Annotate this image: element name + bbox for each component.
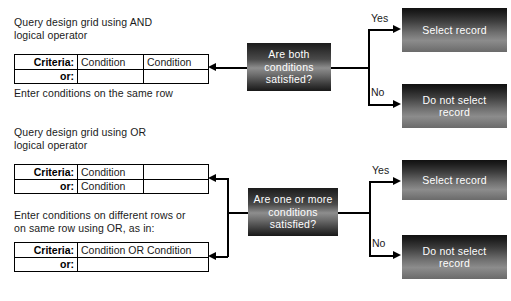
or-cell-1[interactable] <box>78 70 144 84</box>
arrow-and-no <box>393 100 401 108</box>
or-do-not-select-record-box[interactable]: Do not select record <box>402 235 507 279</box>
grid-row[interactable]: Criteria: Condition <box>15 165 208 180</box>
arrow-and-yes <box>393 25 401 33</box>
connector-and-no <box>368 104 396 106</box>
connector-or-decision-out <box>338 212 370 214</box>
and-select-record-box[interactable]: Select record <box>402 8 507 52</box>
connector-or-yes <box>369 181 396 183</box>
or-no-label: No <box>372 237 385 249</box>
arrow-into-or-grid-1 <box>208 174 216 182</box>
connector-and-decision-out <box>331 67 369 69</box>
grid-row[interactable]: or: <box>15 258 208 272</box>
criteria-cell-1[interactable]: Condition <box>78 165 144 179</box>
or-cell-2[interactable] <box>144 180 208 194</box>
or-query-design-grid[interactable]: Criteria: Condition or: Condition <box>14 164 209 194</box>
criteria-cell-1[interactable]: Condition OR Condition <box>78 243 208 257</box>
criteria-cell-2[interactable] <box>144 165 208 179</box>
and-no-label: No <box>371 86 384 98</box>
or-row-label: or: <box>15 70 78 84</box>
or-section-footnote: Enter conditions on different rows or on… <box>14 209 244 234</box>
or-combined-query-design-grid[interactable]: Criteria: Condition OR Condition or: <box>14 242 209 272</box>
arrow-into-and-grid <box>208 63 216 71</box>
and-query-design-grid[interactable]: Criteria: Condition Condition or: <box>14 54 209 84</box>
connector-and-yes <box>368 29 396 31</box>
or-cell-2[interactable] <box>144 70 208 84</box>
or-yes-label: Yes <box>372 164 389 176</box>
arrow-into-or-grid-2 <box>208 252 216 260</box>
criteria-cell-1[interactable]: Condition <box>78 55 144 69</box>
grid-row[interactable]: or: <box>15 70 208 84</box>
and-decision-box[interactable]: Are both conditions satisfied? <box>247 43 331 91</box>
grid-row[interactable]: Criteria: Condition Condition <box>15 55 208 70</box>
criteria-row-label: Criteria: <box>15 55 78 69</box>
arrow-or-yes <box>393 177 401 185</box>
connector-or-no <box>369 255 396 257</box>
connector-decision-to-and-grid <box>213 67 249 69</box>
connector-or-branch-spine <box>369 181 371 256</box>
connector-or-decision-in <box>228 212 249 214</box>
and-section-footnote: Enter conditions on the same row <box>14 87 244 100</box>
connector-or-grid-spine <box>227 178 229 257</box>
criteria-cell-2[interactable]: Condition <box>144 55 208 69</box>
and-yes-label: Yes <box>371 12 388 24</box>
arrow-or-no <box>393 251 401 259</box>
or-cell-1[interactable] <box>78 258 208 272</box>
or-select-record-box[interactable]: Select record <box>402 160 507 200</box>
grid-row[interactable]: or: Condition <box>15 180 208 194</box>
connector-and-branch-spine <box>368 29 370 105</box>
or-cell-1[interactable]: Condition <box>78 180 144 194</box>
and-section-heading: Query design grid using AND logical oper… <box>14 16 214 41</box>
or-row-label: or: <box>15 258 78 272</box>
or-row-label: or: <box>15 180 78 194</box>
criteria-row-label: Criteria: <box>15 165 78 179</box>
criteria-row-label: Criteria: <box>15 243 78 257</box>
and-do-not-select-record-box[interactable]: Do not select record <box>402 84 507 128</box>
or-decision-box[interactable]: Are one or more conditions satisfied? <box>248 188 338 236</box>
or-section-heading: Query design grid using OR logical opera… <box>14 126 214 151</box>
grid-row[interactable]: Criteria: Condition OR Condition <box>15 243 208 258</box>
flowchart-canvas: Query design grid using AND logical oper… <box>0 0 511 301</box>
